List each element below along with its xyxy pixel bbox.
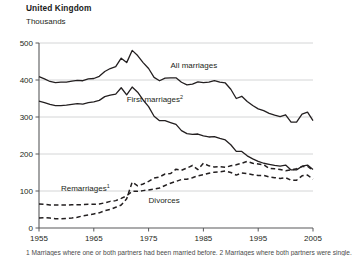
y-axis-ticks-group: 0100200300400500 xyxy=(20,39,39,233)
y-tick-label-400: 400 xyxy=(20,76,34,85)
x-tick-label-1975: 1975 xyxy=(140,234,158,243)
series-label-divorces: Divorces xyxy=(149,196,180,205)
y-tick-label-500: 500 xyxy=(20,39,34,48)
x-tick-label-1965: 1965 xyxy=(85,234,103,243)
chart-footnote: 1 Marriages where one or both partners h… xyxy=(26,249,352,256)
x-tick-label-1995: 1995 xyxy=(249,234,267,243)
x-tick-label-1985: 1985 xyxy=(195,234,213,243)
x-tick-label-2005: 2005 xyxy=(304,234,322,243)
series-label-remarriages: Remarriages1 xyxy=(61,183,110,193)
series-label-first-marriages: First marriages2 xyxy=(127,94,183,104)
series-label-all-marriages: All marriages xyxy=(171,61,218,70)
y-tick-label-300: 300 xyxy=(20,113,34,122)
series-labels-group: All marriagesFirst marriages2Remarriages… xyxy=(61,61,217,205)
x-axis-ticks-group: 195519651975198519952005 xyxy=(30,228,322,243)
series-paths-group xyxy=(39,50,313,218)
y-tick-label-0: 0 xyxy=(29,224,34,233)
y-tick-label-200: 200 xyxy=(20,150,34,159)
y-tick-label-100: 100 xyxy=(20,187,34,196)
x-tick-label-1955: 1955 xyxy=(30,234,48,243)
